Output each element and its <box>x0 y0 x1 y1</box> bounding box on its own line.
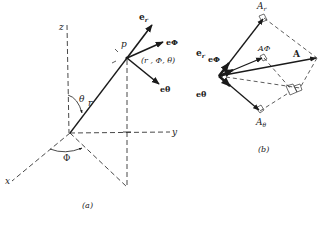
a-phi-label: AΦ <box>257 44 271 53</box>
a-theta-label: Aθ <box>255 117 267 128</box>
x-axis <box>12 133 70 181</box>
e-phi-label-b: eΦ <box>208 54 220 64</box>
a-r-label: Ar <box>256 1 268 12</box>
e-theta-label: eθ <box>160 84 171 94</box>
a-vector-arrow <box>219 58 316 76</box>
theta-label: θ <box>79 94 85 104</box>
a-vector-label: A <box>292 49 301 59</box>
e-theta-label-b: eθ <box>196 89 207 99</box>
y-axis-label: y <box>171 127 178 137</box>
z-axis-label: z <box>58 22 64 32</box>
phi-label: Φ <box>63 153 70 163</box>
panel-b: Ar AΦ A Aθ er eΦ eθ (b) <box>196 1 317 154</box>
e-r-label: er <box>139 12 149 23</box>
x-axis-label: x <box>5 176 10 186</box>
panel-a: z y x p r θ Φ (r , Φ, θ) er eΦ eθ (a) <box>5 12 178 210</box>
z-axis <box>67 25 69 133</box>
point-p-label: p <box>121 39 127 49</box>
projection-line <box>70 133 127 187</box>
panel-b-caption: (b) <box>258 145 269 154</box>
y-axis <box>70 132 170 133</box>
panel-a-caption: (a) <box>82 201 93 210</box>
e-phi-label: eΦ <box>166 37 178 47</box>
e-r-label-b: er <box>196 48 206 59</box>
coordinates-label: (r , Φ, θ) <box>141 56 175 65</box>
phi-arc <box>50 148 82 152</box>
radius-label: r <box>88 98 93 108</box>
spherical-coordinates-figure: z y x p r θ Φ (r , Φ, θ) er eΦ eθ (a) <box>0 0 320 225</box>
